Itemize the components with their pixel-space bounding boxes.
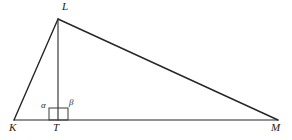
geometry-diagram: K L M T α β [0,0,292,140]
side-KL-line [14,19,58,120]
side-LM-line [58,19,278,120]
angle-label-alpha: α [41,101,46,110]
vertex-label-L: L [62,1,68,12]
vertex-label-T: T [53,122,59,133]
vertex-label-M: M [271,122,280,133]
angle-label-beta: β [69,98,73,107]
vertex-label-K: K [9,122,16,133]
triangle-figure-canvas [0,0,292,140]
